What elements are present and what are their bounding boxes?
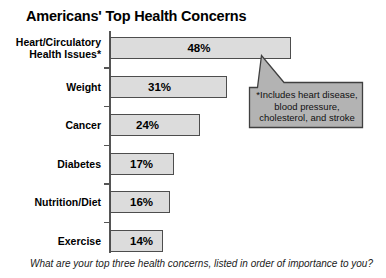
bar-value-label: 24%: [136, 119, 159, 131]
bar-value-label: 48%: [187, 42, 210, 54]
bar-3: 24%: [110, 114, 200, 136]
chart-container: Americans' Top Health Concerns 48%31%24%…: [0, 0, 386, 278]
axis-tick: [104, 222, 109, 224]
bar-value-label: 31%: [148, 81, 171, 93]
bar-value-label: 16%: [130, 196, 153, 208]
bar-value-label: 14%: [130, 235, 153, 247]
axis-tick: [104, 106, 109, 108]
axis-tick: [104, 183, 109, 185]
category-label-3: Cancer: [65, 119, 101, 131]
category-label-5: Nutrition/Diet: [35, 196, 102, 208]
category-label-4: Diabetes: [57, 158, 101, 170]
axis-tick: [104, 145, 109, 147]
axis-tick: [104, 67, 109, 69]
bar-value-label: 17%: [130, 158, 153, 170]
y-axis-line: [109, 31, 111, 253]
bar-4: 17%: [110, 153, 174, 175]
plot-area: 48%31%24%17%16%14% Heart/Circulatory Hea…: [0, 0, 386, 278]
survey-question: What are your top three health concerns,…: [30, 258, 373, 269]
category-label-2: Weight: [66, 81, 101, 93]
footnote-callout: *Includes heart disease, blood pressure,…: [240, 54, 370, 134]
category-label-1: Heart/Circulatory Health Issues*: [16, 36, 101, 60]
category-label-6: Exercise: [58, 235, 101, 247]
bar-6: 14%: [110, 230, 163, 252]
callout-text: *Includes heart disease, blood pressure,…: [251, 89, 363, 124]
bar-2: 31%: [110, 76, 227, 98]
bar-5: 16%: [110, 191, 170, 213]
